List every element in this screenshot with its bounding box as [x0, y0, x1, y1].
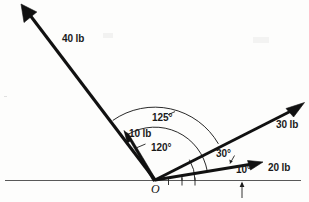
force-diagram-canvas [0, 0, 309, 202]
angle-label-125: 125° [152, 112, 172, 123]
angle-leader-120 [137, 144, 146, 148]
force-diagram-figure: 40 lb 10 lb 30 lb 20 lb 125° 120° 30° 10… [0, 0, 309, 202]
vector-label-10lb: 10 lb [129, 128, 151, 139]
vector-label-30lb: 30 lb [276, 119, 298, 130]
origin-point-label: O [151, 182, 160, 197]
scan-speck [253, 37, 269, 43]
vector-label-20lb: 20 lb [268, 162, 290, 173]
vector-40lb-shaft [30, 15, 156, 181]
scan-speck [4, 96, 7, 97]
vector-30lb-arrowhead [286, 103, 305, 118]
angle-label-30: 30° [216, 148, 231, 159]
angle-label-10: 10° [236, 164, 251, 175]
scan-speck [103, 33, 113, 38]
vector-label-40lb: 40 lb [62, 33, 84, 44]
angle-pointer-10-head [240, 182, 245, 188]
angle-label-120: 120° [151, 142, 171, 153]
